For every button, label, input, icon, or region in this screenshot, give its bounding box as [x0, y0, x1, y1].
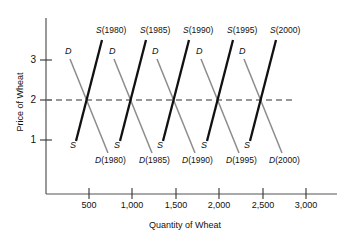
supply-curve-1985 — [120, 40, 146, 141]
demand-label-1995: D(1995) — [226, 156, 257, 165]
demand-label-2000: D(2000) — [269, 156, 300, 165]
supply-curve-2000 — [250, 40, 276, 141]
x-tick-label-2500: 2,500 — [246, 201, 280, 210]
wheat-supply-demand-chart: 3 2 1 Price of Wheat 500 1,000 1,500 2,0… — [0, 0, 347, 241]
demand-year-1985: (1985) — [145, 155, 170, 165]
demand-letter-top-1995: D — [196, 47, 203, 56]
x-tick-label-500: 500 — [72, 201, 106, 210]
y-axis-title: Price of Wheat — [16, 62, 25, 142]
supply-label-1995: S(1995) — [227, 26, 257, 35]
x-tick-label-2000: 2,000 — [202, 201, 236, 210]
x-tick-label-3000: 3,000 — [289, 201, 323, 210]
supply-year-1980: (1980) — [102, 25, 127, 35]
supply-label-1990: S(1990) — [183, 26, 213, 35]
supply-letter-bottom-1980: S — [70, 141, 76, 150]
demand-label-1980: D(1980) — [95, 156, 126, 165]
supply-letter-bottom-1995: S — [201, 141, 207, 150]
supply-label-2000: S(2000) — [270, 26, 300, 35]
demand-year-1995: (1995) — [232, 155, 257, 165]
x-tick-label-1500: 1,500 — [159, 201, 193, 210]
demand-year-1990: (1990) — [188, 155, 213, 165]
supply-letter-bottom-2000: S — [244, 141, 250, 150]
x-tick-label-1000: 1,000 — [115, 201, 149, 210]
supply-year-2000: (2000) — [276, 25, 301, 35]
demand-letter-top-1985: D — [109, 47, 116, 56]
demand-letter-top-1980: D — [65, 47, 72, 56]
supply-curve-1990 — [163, 40, 189, 141]
supply-label-1985: S(1985) — [140, 26, 170, 35]
supply-year-1995: (1995) — [233, 25, 258, 35]
demand-letter-top-2000: D — [239, 47, 246, 56]
x-axis-title: Quantity of Wheat — [115, 221, 255, 230]
supply-year-1990: (1990) — [189, 25, 214, 35]
supply-curve-1995 — [207, 40, 233, 141]
demand-label-1985: D(1985) — [139, 156, 170, 165]
supply-year-1985: (1985) — [146, 25, 171, 35]
supply-curve-1980 — [76, 40, 102, 141]
supply-letter-bottom-1985: S — [114, 141, 120, 150]
demand-year-2000: (2000) — [275, 155, 300, 165]
demand-year-1980: (1980) — [101, 155, 126, 165]
supply-letter-bottom-1990: S — [157, 141, 163, 150]
demand-letter-top-1990: D — [152, 47, 159, 56]
supply-label-1980: S(1980) — [96, 26, 126, 35]
demand-label-1990: D(1990) — [182, 156, 213, 165]
